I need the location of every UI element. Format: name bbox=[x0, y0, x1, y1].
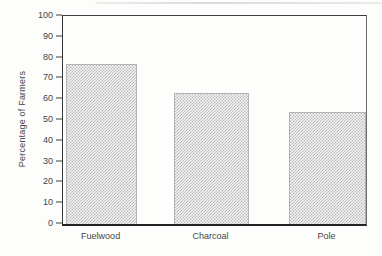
y-tick-label: 60 bbox=[43, 94, 53, 103]
y-tick-label: 40 bbox=[43, 135, 53, 144]
y-tick-100: 100 bbox=[38, 11, 62, 20]
y-tick-10: 10 bbox=[43, 198, 62, 207]
y-tick-50: 50 bbox=[43, 115, 62, 124]
y-tick-label: 90 bbox=[43, 31, 53, 40]
y-tick-20: 20 bbox=[43, 177, 62, 186]
bar-pole bbox=[289, 112, 366, 224]
y-tick-label: 20 bbox=[43, 177, 53, 186]
y-tick-label: 10 bbox=[43, 198, 53, 207]
y-tick-label: 30 bbox=[43, 156, 53, 165]
bar-charcoal bbox=[174, 93, 249, 224]
y-tick-80: 80 bbox=[43, 52, 62, 61]
y-tick-label: 100 bbox=[38, 11, 53, 20]
x-category-label-charcoal: Charcoal bbox=[192, 231, 228, 241]
x-category-label-fuelwood: Fuelwood bbox=[81, 231, 120, 241]
y-tick-0: 0 bbox=[48, 219, 62, 228]
y-tick-40: 40 bbox=[43, 135, 62, 144]
x-category-label-pole: Pole bbox=[318, 231, 336, 241]
plot-area bbox=[62, 15, 367, 226]
y-tick-label: 0 bbox=[48, 219, 53, 228]
y-tick-label: 70 bbox=[43, 73, 53, 82]
y-tick-30: 30 bbox=[43, 156, 62, 165]
y-tick-70: 70 bbox=[43, 73, 62, 82]
y-tick-90: 90 bbox=[43, 31, 62, 40]
y-tick-60: 60 bbox=[43, 94, 62, 103]
bar-chart-figure: Percentage of Farmers 010203040506070809… bbox=[0, 0, 382, 256]
x-axis-labels: FuelwoodCharcoalPole bbox=[62, 231, 365, 247]
y-tick-label: 50 bbox=[43, 115, 53, 124]
scan-artifact-line bbox=[95, 2, 382, 4]
y-tick-label: 80 bbox=[43, 52, 53, 61]
y-axis-ticks: 0102030405060708090100 bbox=[0, 15, 62, 223]
bar-fuelwood bbox=[66, 64, 137, 224]
